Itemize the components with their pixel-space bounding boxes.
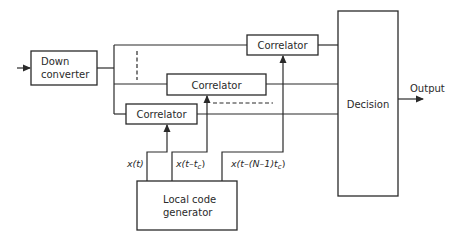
signal-label-x-t-tc: x(t–tc) [175, 158, 205, 171]
correlator-block-2: Correlator [167, 74, 266, 95]
local-code-generator-label-2: generator [163, 207, 213, 218]
output-label: Output [410, 83, 445, 94]
correlator-3-label: Correlator [257, 40, 308, 51]
correlator-block-3: Correlator [247, 35, 318, 55]
local-code-generator-block: Local code generator [137, 181, 237, 230]
signal-label-x-t: x(t) [126, 158, 144, 169]
down-converter-label-1: Down [41, 56, 69, 67]
correlator-1-label: Correlator [136, 109, 187, 120]
code-path-x-t [147, 125, 167, 181]
decision-block: Decision [338, 11, 398, 196]
local-code-generator-label-1: Local code [163, 194, 216, 205]
correlator-2-label: Correlator [191, 80, 242, 91]
signal-label-x-t-n-tc: x(t–(N–1)tc) [230, 158, 285, 171]
correlator-block-1: Correlator [126, 104, 197, 124]
receiver-block-diagram: Down converter Correlator Correlator Cor… [0, 0, 455, 244]
down-converter-label-2: converter [41, 69, 90, 80]
down-converter-block: Down converter [31, 51, 97, 85]
decision-label: Decision [347, 99, 390, 110]
